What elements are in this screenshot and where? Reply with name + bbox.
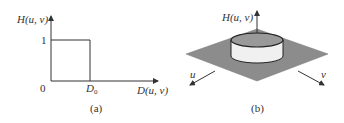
panel-b: H(u, v) u v (b) bbox=[186, 11, 328, 115]
y-axis-label: H(u, v) bbox=[16, 13, 48, 26]
panel-a: H(u, v) 1 0 D0 D(u, v) (a) bbox=[16, 13, 168, 115]
origin-label: 0 bbox=[40, 82, 46, 94]
v-axis-label: v bbox=[321, 68, 326, 80]
u-axis-label: u bbox=[190, 68, 196, 80]
vertical-axis-label: H(u, v) bbox=[221, 11, 253, 24]
figure: H(u, v) 1 0 D0 D(u, v) (a) H(u, v) u v (… bbox=[0, 0, 344, 123]
cylinder-top bbox=[231, 33, 283, 47]
x-axis-label: D(u, v) bbox=[136, 84, 168, 97]
y-tick-label: 1 bbox=[41, 34, 47, 46]
filter-response-line bbox=[51, 40, 90, 81]
x-tick-label: D0 bbox=[85, 82, 98, 96]
caption-b: (b) bbox=[251, 102, 264, 115]
caption-a: (a) bbox=[90, 102, 103, 115]
